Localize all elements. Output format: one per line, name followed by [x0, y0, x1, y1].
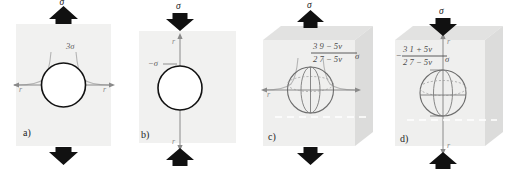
bottom-load-arrow-d	[429, 152, 457, 169]
top-load-label-a: σ	[60, 0, 65, 7]
top-load-arrow-b	[166, 13, 194, 31]
cube-top-face-c	[263, 26, 373, 40]
stress-concentration-figure: r r 3σ σ a)	[0, 0, 523, 170]
bottom-load-arrow-b	[166, 148, 194, 166]
formula-sign-d: −	[396, 50, 401, 60]
formula-denominator-d: 2 7 − 5ν	[403, 57, 432, 67]
panel-a: r r 3σ σ a)	[0, 0, 130, 170]
top-load-arrow-c	[297, 10, 324, 28]
peak-stress-label-a: 3σ	[65, 41, 75, 51]
formula-numerator-d: 3 1 + 5ν	[402, 44, 432, 54]
r-axis-arrowhead-right-a	[109, 82, 115, 87]
panel-c: 3 9 − 5ν 2 7 − 5ν σ σ r c)	[255, 0, 390, 170]
top-load-label-d: σ	[439, 6, 444, 16]
panel-d: − 3 1 + 5ν 2 7 − 5ν σ σ r r d)	[387, 0, 523, 170]
panel-label-b: b)	[141, 129, 149, 141]
panel-label-d: d)	[400, 133, 408, 145]
panel-b: r r −σ σ b)	[125, 0, 255, 170]
formula-denominator-c: 2 7 − 5ν	[313, 54, 342, 64]
panel-label-a: a)	[23, 127, 31, 139]
cube-right-face-c	[355, 26, 373, 146]
cube-right-face-d	[485, 26, 503, 146]
bottom-load-arrow-c	[297, 147, 324, 165]
bottom-load-arrow-a	[49, 147, 78, 165]
top-load-label-b: σ	[176, 1, 181, 11]
circular-hole-a	[42, 63, 86, 107]
circular-hole-b	[158, 66, 202, 110]
top-load-label-c: σ	[307, 0, 312, 10]
peak-stress-label-b: −σ	[148, 58, 159, 68]
panel-label-c: c)	[268, 131, 276, 143]
formula-numerator-c: 3 9 − 5ν	[312, 41, 342, 51]
top-load-arrow-a	[49, 6, 78, 24]
